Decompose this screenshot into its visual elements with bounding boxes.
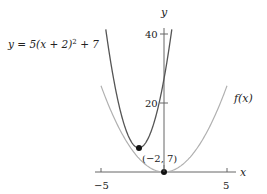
tick-label-20: 20 xyxy=(145,98,158,109)
tick-label-neg5: −5 xyxy=(94,180,109,191)
equation-label: y = 5(x + 2)2 + 7 xyxy=(7,38,99,50)
vertex-label: (−2, 7) xyxy=(142,153,177,164)
tick-label-40: 40 xyxy=(145,29,158,40)
x-axis-label: x xyxy=(240,166,247,179)
curve-shifted-parabola xyxy=(106,29,172,147)
vertex-point xyxy=(136,145,142,151)
tick-label-5: 5 xyxy=(223,180,229,191)
fx-label: f(x) xyxy=(233,92,253,105)
chart-canvas: y x 40 20 −5 5 (−2, 7) f(x) y = 5(x + 2)… xyxy=(0,0,267,194)
y-axis-label: y xyxy=(160,6,168,19)
